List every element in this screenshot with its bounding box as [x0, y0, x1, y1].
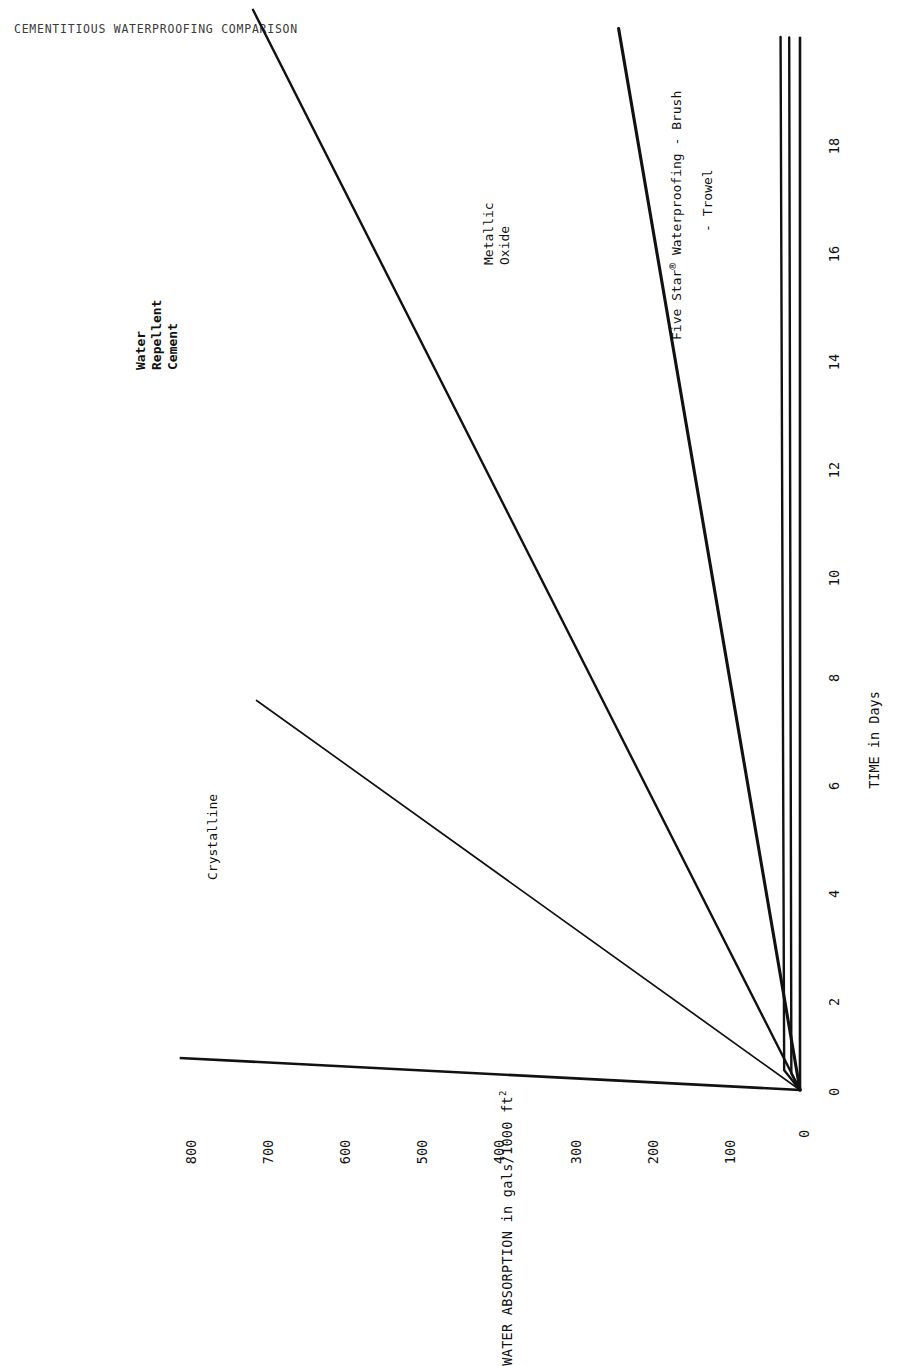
series-label-metallic-line2: Oxide: [497, 202, 513, 265]
xtick-label-10: 10: [826, 570, 842, 586]
chart-series-layer: [253, 10, 800, 1090]
ytick-label-200: 200: [645, 1140, 661, 1164]
series-label-wrc-line1: Water: [133, 300, 149, 370]
series-line-4: [789, 37, 800, 1090]
y-axis-title-superscript: 2: [498, 1090, 508, 1096]
xtick-label-4: 4: [826, 890, 842, 898]
series-label-crystalline: Crystalline: [205, 794, 221, 880]
series-label-brush-line1: Five Star® Waterproofing - Brush: [665, 91, 685, 340]
y-axis-title-text: WATER ABSORPTION in gals/1000 ft: [499, 1096, 515, 1366]
series-label-five-star-brush: Five Star® Waterproofing - Brush: [665, 91, 685, 340]
ytick-label-700: 700: [260, 1140, 276, 1164]
brand-name: Five Star: [669, 270, 684, 340]
y-axis-line: [181, 1058, 800, 1090]
series-label-trowel-line1: - Trowel: [700, 169, 716, 232]
series-label-five-star-trowel: - Trowel: [700, 169, 716, 232]
series-label-metallic-line1: Metallic: [481, 202, 497, 265]
brush-suffix: Waterproofing - Brush: [669, 91, 684, 255]
y-axis-title: WATER ABSORPTION in gals/1000 ft2: [498, 1090, 515, 1365]
xtick-label-2: 2: [826, 998, 842, 1006]
ytick-label-800: 800: [183, 1140, 199, 1164]
xtick-label-0: 0: [826, 1088, 842, 1096]
xtick-label-16: 16: [826, 246, 842, 262]
series-line-0: [257, 700, 800, 1090]
xtick-label-14: 14: [826, 354, 842, 370]
series-label-wrc-line2: Repellent: [149, 300, 165, 370]
xtick-label-6: 6: [826, 782, 842, 790]
series-line-1: [253, 10, 800, 1090]
series-label-wrc-line3: Cement: [165, 300, 181, 370]
registered-trademark-icon: ®: [666, 263, 679, 270]
series-label-water-repellent-cement: Water Repellent Cement: [133, 300, 181, 370]
ytick-label-500: 500: [414, 1140, 430, 1164]
xtick-label-8: 8: [826, 674, 842, 682]
xtick-label-18: 18: [826, 138, 842, 154]
ytick-label-0: 0: [796, 1130, 812, 1138]
series-label-crystalline-line1: Crystalline: [205, 794, 221, 880]
ytick-label-100: 100: [722, 1140, 738, 1164]
ytick-label-300: 300: [568, 1140, 584, 1164]
x-axis-title: TIME in Days: [866, 691, 882, 789]
series-label-metallic-oxide: Metallic Oxide: [481, 202, 513, 265]
xtick-label-12: 12: [826, 462, 842, 478]
ytick-label-600: 600: [337, 1140, 353, 1164]
